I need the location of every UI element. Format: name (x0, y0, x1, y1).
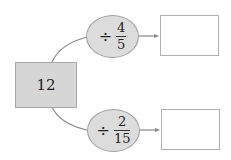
divide-sign: ÷ (99, 27, 112, 46)
start-value: 12 (36, 76, 55, 94)
denominator: 15 (114, 132, 131, 146)
divide-sign: ÷ (97, 121, 110, 140)
operation-top-ellipse: ÷ 4 5 (86, 15, 139, 58)
denominator: 5 (117, 38, 125, 52)
operation-bottom-ellipse: ÷ 2 15 (87, 109, 140, 152)
start-number-box: 12 (15, 62, 77, 108)
answer-box-bottom[interactable] (161, 109, 220, 150)
numerator: 4 (117, 21, 125, 35)
fraction-bottom: 2 15 (114, 115, 131, 146)
answer-box-top[interactable] (160, 15, 219, 56)
fraction-top: 4 5 (116, 21, 126, 52)
numerator: 2 (118, 115, 126, 129)
